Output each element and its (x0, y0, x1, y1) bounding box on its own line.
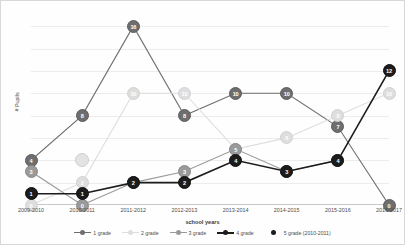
legend-swatch-icon (74, 229, 91, 236)
data-point-marker: 10 (229, 87, 242, 100)
legend-item[interactable]: 3 grade (170, 229, 207, 236)
data-point-marker: 4 (229, 154, 242, 167)
data-point-marker: 16 (127, 20, 140, 33)
legend-item[interactable]: 1 grade (74, 229, 111, 236)
legend-swatch-icon (265, 229, 282, 236)
data-point-marker: 1 (25, 187, 38, 200)
chart-legend: 1 grade2 grade3 grade4 grade5 grade (201… (1, 229, 404, 236)
legend-label: 3 grade (189, 230, 207, 236)
legend-swatch-icon (170, 229, 187, 236)
legend-item[interactable]: 4 grade (217, 229, 254, 236)
data-point-marker: 8 (76, 109, 89, 122)
y-axis-title: # Pupils (14, 72, 20, 132)
data-point-marker: 8 (178, 109, 191, 122)
data-point-marker: 12 (383, 64, 396, 77)
data-point-marker: 3 (25, 165, 38, 178)
data-point-marker: 2 (178, 176, 191, 189)
data-point-marker: 2 (127, 176, 140, 189)
legend-item[interactable]: 2 grade (122, 229, 159, 236)
legend-swatch-icon (122, 229, 139, 236)
legend-label: 1 grade (93, 230, 111, 236)
legend-label: 4 grade (236, 230, 254, 236)
legend-item[interactable]: 5 grade (2010-2011) (265, 229, 331, 236)
plot-area: 48168101070021010568103023534112243412 (31, 15, 389, 205)
x-axis-title: school years (1, 219, 404, 225)
legend-swatch-icon (217, 229, 234, 236)
data-point-marker: 10 (178, 87, 191, 100)
x-axis-tick-labels: 2009-20102010-20112011-20122012-20132013… (31, 207, 389, 219)
legend-label: 2 grade (141, 230, 159, 236)
data-point-marker: 10 (280, 87, 293, 100)
data-point-marker: 1 (76, 187, 89, 200)
legend-label: 5 grade (2010-2011) (284, 230, 331, 236)
data-point-marker: 10 (383, 87, 396, 100)
line-chart: 48168101070021010568103023534112243412 2… (0, 0, 405, 245)
x-axis-tick-label: 2016-2017 (359, 207, 405, 213)
data-point-marker: 10 (127, 87, 140, 100)
